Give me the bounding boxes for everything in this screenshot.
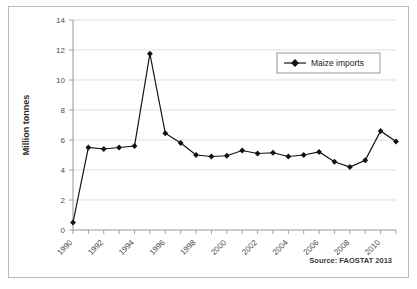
y-tick-label-8: 8: [61, 106, 66, 115]
x-tick-label-1996: 1996: [148, 238, 167, 257]
data-point-2008: [347, 164, 353, 170]
y-tick-label-4: 4: [61, 166, 66, 175]
data-point-1991: [85, 145, 91, 151]
x-tick-label-1992: 1992: [86, 238, 105, 257]
data-point-1993: [116, 145, 122, 151]
x-tick-label-1990: 1990: [55, 238, 74, 257]
legend-label-maize-imports: Maize imports: [311, 58, 364, 68]
data-point-2001: [239, 148, 245, 154]
x-tick-label-2004: 2004: [271, 238, 290, 257]
y-tick-label-2: 2: [61, 196, 66, 205]
series-maize-imports: [70, 51, 399, 226]
data-point-2007: [332, 159, 338, 165]
y-tick-label-0: 0: [61, 226, 66, 235]
data-point-1999: [209, 154, 215, 160]
series-markers-maize-imports: [70, 51, 399, 226]
data-point-2000: [224, 153, 230, 159]
data-point-2006: [316, 149, 322, 155]
y-axis-ticks-group: 02468101214: [56, 16, 73, 235]
y-tick-label-14: 14: [56, 16, 65, 25]
data-point-1995: [147, 51, 153, 57]
y-tick-label-12: 12: [56, 46, 65, 55]
data-point-1992: [101, 146, 107, 152]
x-axis-ticks-group: [73, 230, 396, 234]
x-tick-label-2008: 2008: [332, 238, 351, 257]
x-tick-label-2006: 2006: [302, 238, 321, 257]
data-point-1996: [162, 130, 168, 136]
y-tick-label-6: 6: [61, 136, 66, 145]
data-point-1990: [70, 220, 76, 226]
x-tick-label-2000: 2000: [209, 238, 228, 257]
x-tick-label-2002: 2002: [240, 238, 259, 257]
data-point-2004: [285, 154, 291, 160]
x-tick-label-1998: 1998: [179, 238, 198, 257]
maize-imports-line-chart: 02468101214 1990199219941996199820002002…: [9, 7, 408, 277]
x-tick-label-2010: 2010: [363, 238, 382, 257]
gridlines-group: [73, 20, 396, 200]
data-point-2009: [362, 157, 368, 163]
data-point-2003: [270, 150, 276, 156]
chart-legend[interactable]: Maize imports: [277, 53, 380, 73]
data-point-1994: [132, 143, 138, 149]
x-axis-tick-labels-group: 1990199219941996199820002002200420062008…: [55, 238, 382, 257]
data-point-2005: [301, 152, 307, 158]
series-line-maize-imports: [73, 54, 396, 223]
x-tick-label-1994: 1994: [117, 238, 136, 257]
source-note: Source: FAOSTAT 2013: [309, 256, 392, 265]
data-point-2002: [255, 151, 261, 157]
y-axis-title: Million tonnes: [21, 95, 31, 156]
chart-figure: 02468101214 1990199219941996199820002002…: [8, 6, 409, 278]
y-tick-label-10: 10: [56, 76, 65, 85]
